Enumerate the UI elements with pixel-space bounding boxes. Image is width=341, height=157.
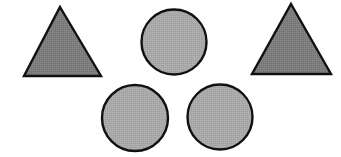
circle-bottom-right-shape: [188, 85, 253, 150]
shapes-svg: [0, 0, 341, 157]
figure-canvas: Five outlined gray geometric shapes arra…: [0, 0, 341, 157]
circle-top-center-shape: [142, 10, 207, 75]
circle-bottom-left-shape: [102, 85, 168, 151]
